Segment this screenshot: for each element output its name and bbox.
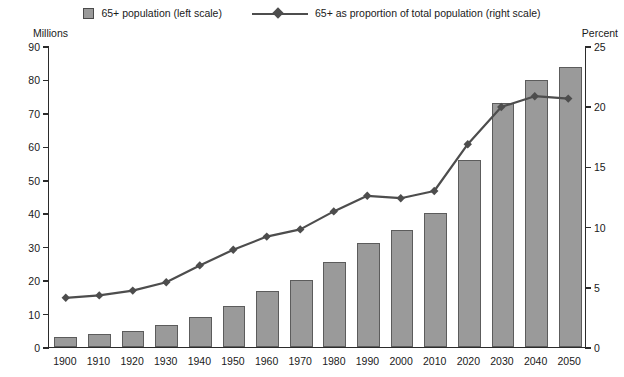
left-axis-tick-label: 90	[28, 42, 40, 52]
left-axis-tick	[43, 347, 49, 349]
left-axis-tick-label: 20	[28, 276, 40, 286]
x-axis-tick-label: 1990	[356, 355, 379, 367]
x-axis-tick-label: 1910	[87, 355, 110, 367]
x-axis-tick-label: 1970	[289, 355, 312, 367]
line-marker-diamond-icon	[531, 92, 539, 100]
left-axis-tick-label: 70	[28, 109, 40, 119]
line-marker-diamond-icon	[330, 207, 338, 215]
line-marker-diamond-icon	[296, 225, 304, 233]
legend-label-population: 65+ population (left scale)	[101, 7, 222, 19]
line-marker-diamond-icon	[95, 291, 103, 299]
x-axis-tick-label: 2030	[490, 355, 513, 367]
line-marker-diamond-icon	[263, 232, 271, 240]
line-marker-diamond-icon	[129, 286, 137, 294]
x-axis-tick-label: 1940	[188, 355, 211, 367]
x-axis-tick-label: 2000	[389, 355, 412, 367]
left-axis-caption: Millions	[33, 27, 68, 39]
left-axis-tick-label: 0	[34, 343, 40, 353]
line-marker-diamond-icon	[196, 261, 204, 269]
right-axis-tick	[585, 287, 591, 289]
right-axis-tick-label: 25	[594, 42, 606, 52]
right-axis-tick-label: 0	[594, 343, 600, 353]
line-marker-diamond-icon	[62, 294, 70, 302]
x-axis-tick-label: 1980	[322, 355, 345, 367]
line-marker-diamond-icon	[229, 246, 237, 254]
left-axis-tick-label: 40	[28, 209, 40, 219]
right-axis-tick-label: 20	[594, 102, 606, 112]
x-axis-tick-label: 2050	[558, 355, 581, 367]
right-axis-tick-label: 10	[594, 223, 606, 233]
right-axis-tick-label: 15	[594, 162, 606, 172]
legend-item-proportion: 65+ as proportion of total population (r…	[252, 7, 541, 19]
legend-item-population: 65+ population (left scale)	[83, 7, 222, 19]
x-axis-tick-label: 1930	[154, 355, 177, 367]
x-axis-labels: 1900191019201930194019501960197019801990…	[48, 355, 586, 371]
right-axis-tick	[585, 167, 591, 169]
left-axis-tick-label: 60	[28, 142, 40, 152]
x-axis-tick-label: 1920	[120, 355, 143, 367]
line-marker-diamond-icon	[564, 94, 572, 102]
line-diamond-marker-icon	[252, 8, 308, 19]
line-marker-diamond-icon	[162, 278, 170, 286]
legend-label-proportion: 65+ as proportion of total population (r…	[315, 7, 541, 19]
x-axis-tick-label: 1960	[255, 355, 278, 367]
x-axis-tick-label: 1950	[221, 355, 244, 367]
line-series	[49, 47, 585, 347]
left-axis-tick-label: 80	[28, 75, 40, 85]
x-axis-tick-label: 1900	[53, 355, 76, 367]
right-axis-tick	[585, 227, 591, 229]
x-axis-tick-label: 2040	[524, 355, 547, 367]
line-marker-diamond-icon	[363, 192, 371, 200]
right-axis-caption: Percent	[582, 27, 618, 39]
left-axis-tick-label: 30	[28, 243, 40, 253]
right-axis-tick	[585, 347, 591, 349]
x-axis-tick-label: 2020	[457, 355, 480, 367]
right-axis-tick	[585, 46, 591, 48]
left-axis-tick-label: 50	[28, 176, 40, 186]
chart-legend: 65+ population (left scale) 65+ as propo…	[0, 4, 624, 22]
line-path	[66, 96, 569, 298]
plot-area: 0102030405060708090 0510152025	[48, 47, 586, 348]
right-axis-tick	[585, 106, 591, 108]
x-axis-tick-label: 2010	[423, 355, 446, 367]
right-axis-tick-label: 5	[594, 283, 600, 293]
left-axis-tick-label: 10	[28, 310, 40, 320]
line-marker-diamond-icon	[397, 194, 405, 202]
bar-swatch-icon	[83, 8, 94, 19]
